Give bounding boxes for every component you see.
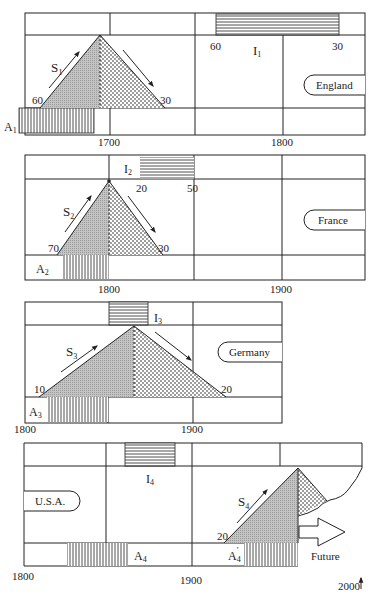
country-label: England (316, 79, 353, 91)
a1-bar (19, 108, 94, 133)
axis-label-1900: 1900 (180, 574, 203, 586)
axis-label-1800: 1800 (271, 136, 294, 148)
panel-germany: S3 10 20 A3 I3 Germany 1800 1900 (14, 302, 282, 435)
s3-right-value: 20 (221, 383, 233, 395)
panel-usa: U.S.A. S4 20 I4 A4 A4′ Future 1800 1900 … (12, 443, 362, 592)
axis-label-2000: 2000 (338, 580, 361, 592)
i1-end-value: 30 (332, 40, 344, 52)
a4-prime-bar (244, 543, 298, 566)
s2-right-value: 30 (158, 242, 170, 254)
future-arrow-icon (299, 518, 345, 546)
s1-right-value: 30 (160, 94, 172, 106)
country-label: U.S.A. (35, 495, 66, 507)
s1-left-value: 60 (32, 94, 44, 106)
i2-bar (140, 157, 194, 179)
i1-bar (216, 14, 339, 35)
s4-left-value: 20 (217, 530, 229, 542)
a4-bar (67, 543, 128, 566)
a3-bar (47, 397, 108, 422)
axis-label-1900: 1900 (270, 283, 293, 295)
i1-start-value: 60 (210, 40, 222, 52)
country-label: Germany (229, 346, 270, 358)
country-label: France (318, 214, 348, 226)
s2-left-value: 70 (48, 242, 60, 254)
s3-left-value: 10 (34, 383, 46, 395)
panel-england: S1 60 30 A1 60 I1 30 England 1700 1800 (4, 13, 365, 148)
i4-bar (125, 443, 175, 466)
a1-label: A1 (4, 120, 17, 135)
panel-france: S2 70 30 A2 I2 20 50 France 1800 1900 (25, 155, 365, 295)
industrialization-diagram: S1 60 30 A1 60 I1 30 England 1700 1800 S… (0, 0, 377, 594)
axis-label-1800: 1800 (12, 570, 35, 582)
axis-label-1800: 1800 (98, 283, 121, 295)
i3-bar (109, 302, 148, 325)
axis-label-1900: 1900 (181, 423, 204, 435)
axis-label-1800: 1800 (14, 423, 37, 435)
i2-end-value: 50 (187, 182, 199, 194)
future-label: Future (311, 550, 340, 562)
i2-start-value: 20 (136, 182, 148, 194)
a2-bar (63, 255, 109, 279)
axis-label-1700: 1700 (98, 136, 121, 148)
